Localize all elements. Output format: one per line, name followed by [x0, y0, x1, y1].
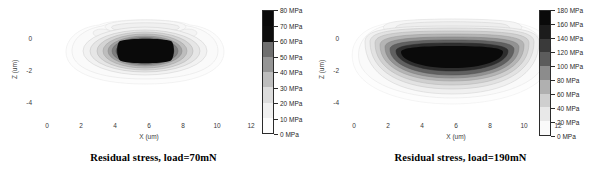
caption-right: Residual stress, load=190mN: [307, 152, 614, 163]
colorbar-bar-right: [539, 10, 551, 136]
colorbar-tick-right-1: [551, 24, 555, 25]
colorbar-tick-right-6: [551, 94, 555, 95]
colorbar-tick-right-7: [551, 108, 555, 109]
contour-svg-left: [38, 8, 253, 120]
ytick-left-2: -4: [16, 99, 32, 106]
colorbar-tick-right-0: [551, 10, 555, 11]
colorbar-left: 80 MPa 70 MPa 60 MPa 50 MPa 40 MPa 30 MP…: [262, 10, 306, 134]
caption-left: Residual stress, load=70mN: [0, 152, 307, 163]
xtick-left-0: 0: [45, 122, 49, 129]
colorbar-tick-left-3: [274, 57, 278, 58]
colorbar-label-left-8: 0 MPa: [280, 131, 299, 138]
colorbar-segment-100: [540, 66, 550, 80]
colorbar-label-right-9: 0 MPa: [557, 133, 576, 140]
ytick-left-1: -2: [16, 67, 32, 74]
colorbar-tick-right-9: [551, 136, 555, 137]
yaxis-label-right: Z (um): [318, 50, 325, 90]
colorbar-segment-20: [540, 121, 550, 135]
colorbar-segment-40: [540, 107, 550, 121]
colorbar-tick-right-3: [551, 52, 555, 53]
xtick-left-1: 2: [79, 122, 83, 129]
colorbar-right: 180 MPa 160 MPa 140 MPa 120 MPa 100 MPa …: [539, 10, 591, 136]
colorbar-label-left-2: 60 MPa: [280, 38, 302, 45]
colorbar-label-right-0: 180 MPa: [557, 7, 583, 14]
colorbar-segment-30: [263, 87, 273, 102]
xaxis-label-left: X (um): [139, 133, 159, 140]
colorbar-segment-40: [263, 72, 273, 87]
colorbar-label-left-7: 10 MPa: [280, 115, 302, 122]
ytick-right-2: -4: [323, 99, 339, 106]
colorbar-tick-left-6: [274, 103, 278, 104]
colorbar-segment-60: [540, 94, 550, 108]
colorbar-label-left-4: 40 MPa: [280, 69, 302, 76]
contour-svg-right: [345, 8, 560, 120]
colorbar-label-left-0: 80 MPa: [280, 7, 302, 14]
colorbar-segment-50: [263, 57, 273, 72]
colorbar-label-left-3: 50 MPa: [280, 53, 302, 60]
colorbar-tick-right-8: [551, 122, 555, 123]
xtick-left-6: 12: [247, 122, 254, 129]
yaxis-label-left: Z (um): [11, 50, 18, 90]
colorbar-bar-left: [262, 10, 274, 134]
ytick-right-0: 0: [323, 35, 339, 42]
colorbar-segment-160: [540, 25, 550, 39]
colorbar-label-right-7: 40 MPa: [557, 105, 579, 112]
xtick-left-4: 8: [181, 122, 185, 129]
ytick-right-1: -2: [323, 67, 339, 74]
contour-bands-left: [66, 20, 224, 84]
figure-panel-left: 0 -2 -4 Z (um) 0 2 4 6 8 10 12 X (um) 80…: [0, 0, 307, 193]
colorbar-segment-140: [540, 39, 550, 53]
colorbar-label-left-5: 30 MPa: [280, 84, 302, 91]
colorbar-segment-60: [263, 42, 273, 57]
xtick-right-3: 6: [454, 122, 458, 129]
colorbar-label-left-6: 20 MPa: [280, 100, 302, 107]
xtick-right-5: 10: [520, 122, 527, 129]
contour-plot-right: [345, 8, 560, 120]
colorbar-segment-120: [540, 52, 550, 66]
xtick-left-5: 10: [213, 122, 220, 129]
xtick-left-2: 4: [113, 122, 117, 129]
xaxis-label-right: X (um): [446, 133, 466, 140]
colorbar-tick-right-5: [551, 80, 555, 81]
colorbar-label-right-3: 120 MPa: [557, 49, 583, 56]
colorbar-segment-80: [263, 11, 273, 26]
figure-panel-right: 0 -2 -4 Z (um) 0 2 4 6 8 10 12 X (um) 18…: [307, 0, 614, 193]
contour-bands-right: [352, 19, 552, 104]
colorbar-tick-right-4: [551, 66, 555, 67]
colorbar-tick-left-4: [274, 72, 278, 73]
xtick-right-4: 8: [488, 122, 492, 129]
xtick-left-3: 6: [147, 122, 151, 129]
colorbar-segment-20: [263, 103, 273, 118]
colorbar-segment-80: [540, 80, 550, 94]
colorbar-segment-10: [263, 118, 273, 133]
xtick-right-1: 2: [386, 122, 390, 129]
colorbar-segment-180: [540, 11, 550, 25]
colorbar-tick-left-8: [274, 134, 278, 135]
colorbar-label-right-2: 140 MPa: [557, 35, 583, 42]
contour-band-80-core: [117, 39, 174, 64]
colorbar-label-left-1: 70 MPa: [280, 22, 302, 29]
colorbar-tick-left-7: [274, 119, 278, 120]
colorbar-label-right-4: 100 MPa: [557, 63, 583, 70]
xtick-right-2: 4: [420, 122, 424, 129]
colorbar-label-right-5: 80 MPa: [557, 77, 579, 84]
ytick-left-0: 0: [16, 35, 32, 42]
colorbar-tick-left-0: [274, 10, 278, 11]
xtick-right-0: 0: [352, 122, 356, 129]
colorbar-label-right-1: 160 MPa: [557, 21, 583, 28]
colorbar-tick-left-2: [274, 41, 278, 42]
colorbar-tick-left-5: [274, 88, 278, 89]
colorbar-segment-70: [263, 26, 273, 41]
contour-plot-left: [38, 8, 253, 120]
colorbar-label-right-6: 60 MPa: [557, 91, 579, 98]
colorbar-label-right-8: 20 MPa: [557, 119, 579, 126]
colorbar-tick-left-1: [274, 26, 278, 27]
colorbar-tick-right-2: [551, 38, 555, 39]
